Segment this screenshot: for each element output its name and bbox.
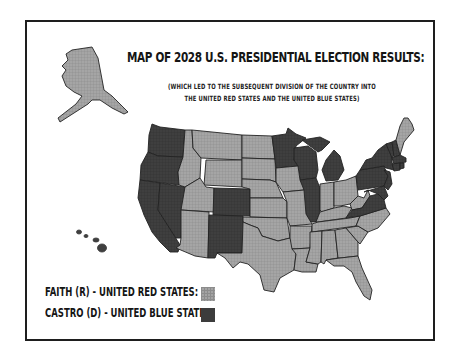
- state-MT: [192, 130, 242, 160]
- map-subtitle: (WHICH LED TO THE SUBSEQUENT DIVISION OF…: [152, 81, 392, 105]
- state-IN: [320, 182, 334, 212]
- state-SD: [242, 158, 276, 182]
- state-CO: [213, 188, 250, 216]
- subtitle-line-2: THE UNITED RED STATES AND THE UNITED BLU…: [152, 93, 392, 105]
- state-ND: [242, 135, 275, 159]
- state-OR: [140, 152, 183, 185]
- state-AZ: [176, 210, 209, 258]
- state-AR: [290, 226, 312, 249]
- state-RI: [400, 163, 404, 169]
- state-HI: [77, 230, 107, 252]
- state-AK: [58, 47, 128, 122]
- state-WA: [148, 124, 185, 157]
- legend-swatch-blue: [201, 308, 215, 322]
- map-title: MAP OF 2028 U.S. PRESIDENTIAL ELECTION R…: [127, 49, 372, 65]
- state-CT: [392, 163, 400, 171]
- legend-label-blue: CASTRO (D) - UNITED BLUE STATES:: [45, 306, 215, 320]
- legend-swatch-red: [201, 287, 215, 301]
- state-KS: [250, 198, 287, 218]
- legend-label-red: FAITH (R) - UNITED RED STATES:: [45, 285, 198, 299]
- state-WY: [204, 160, 242, 187]
- state-NM: [208, 215, 243, 258]
- state-ME: [396, 118, 414, 155]
- state-FL: [326, 256, 372, 300]
- subtitle-line-1: (WHICH LED TO THE SUBSEQUENT DIVISION OF…: [152, 81, 392, 93]
